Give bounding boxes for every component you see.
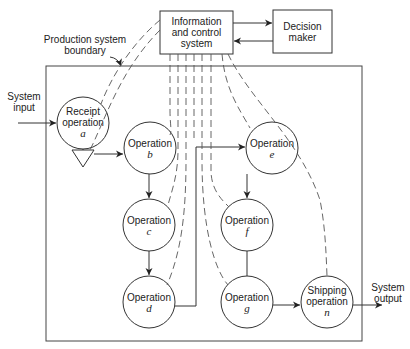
boundary-pointer (110, 57, 121, 66)
op-c-id: c (123, 226, 175, 237)
output-line-2: output (368, 293, 408, 304)
boundary-line-1: Production system (40, 34, 130, 45)
shipping-id: n (301, 307, 353, 318)
op-e-id: e (246, 149, 298, 160)
shipping-line-1: Shipping (301, 285, 353, 296)
output-line-1: System (368, 282, 408, 293)
input-line-1: System (6, 91, 42, 102)
op-c-label: Operation c (123, 215, 175, 237)
system-output-label: System output (368, 282, 408, 304)
op-g-label: Operation g (221, 292, 273, 314)
decision-maker-label: Decision maker (273, 21, 332, 43)
info-line-3: system (160, 38, 233, 49)
op-d-id: d (123, 303, 175, 314)
op-d-label: Operation d (123, 292, 175, 314)
op-e-label: Operation e (246, 138, 298, 160)
op-g-id: g (221, 303, 273, 314)
decision-line-2: maker (273, 32, 332, 43)
system-input-label: System input (6, 91, 42, 113)
decision-line-1: Decision (273, 21, 332, 32)
receipt-line-1: Receipt (57, 106, 109, 117)
boundary-label: Production system boundary (40, 34, 130, 56)
op-f-id: f (221, 226, 273, 237)
op-b-id: b (124, 149, 176, 160)
input-line-2: input (6, 102, 42, 113)
info-system-label: Information and control system (160, 16, 233, 49)
info-line-2: and control (160, 27, 233, 38)
boundary-line-2: boundary (40, 45, 130, 56)
info-line-a (101, 20, 160, 104)
inventory-triangle (72, 150, 94, 167)
info-line-c (168, 54, 178, 205)
op-b-label: Operation b (124, 138, 176, 160)
info-line-g2 (202, 54, 228, 285)
op-f-label: Operation f (221, 215, 273, 237)
info-line-e (222, 54, 250, 128)
receipt-id: a (57, 128, 109, 139)
receipt-label: Receipt operation a (57, 106, 109, 139)
shipping-label: Shipping operation n (301, 285, 353, 318)
info-line-n (228, 54, 327, 276)
info-line-1: Information (160, 16, 233, 27)
